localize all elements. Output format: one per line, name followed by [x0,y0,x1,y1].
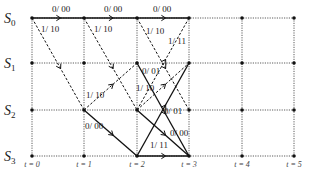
transition-edges [32,15,189,158]
edge-1-10-4 [84,63,137,110]
edge-label: 1/ 10 [86,90,105,100]
edge-label: 1/ 10 [146,26,165,36]
node-t2-s3 [135,154,139,158]
edge-label: 1/ 11 [168,36,186,46]
trellis-canvas: 0/ 001/ 100/ 001/ 101/ 100/ 000/ 001/ 10… [0,0,319,182]
node-t4-s1 [240,61,244,65]
edge-label: 0/ 00 [85,121,104,131]
edge-label: 0/ 01 [164,106,182,116]
node-t3-s2 [187,108,191,112]
node-t5-s1 [292,61,296,65]
state-label-2: S2 [4,103,16,120]
edge-label: 0/ 00 [52,4,71,14]
edge-label: 0/ 00 [153,4,172,14]
node-t1-s1 [82,61,86,65]
node-t3-s3 [187,154,191,158]
time-label-1: t = 1 [76,160,92,169]
node-t0-s2 [30,108,34,112]
node-t4-s0 [240,16,244,20]
edge-label: 1/ 10 [136,83,155,93]
time-labels: t = 0t = 1t = 2t = 3t = 4t = 5 [24,160,302,169]
node-t2-s1 [135,61,139,65]
node-t1-s0 [82,16,86,20]
state-label-3: S3 [4,149,16,166]
state-label-0: S0 [4,11,16,28]
time-label-0: t = 0 [24,160,40,169]
node-t3-s1 [187,61,191,65]
node-t4-s2 [240,108,244,112]
node-t5-s3 [292,154,296,158]
trellis-diagram: 0/ 001/ 100/ 001/ 101/ 100/ 000/ 001/ 10… [0,0,319,182]
node-t0-s1 [30,61,34,65]
edge-label: 0/ 01 [142,66,160,76]
edge-label: 0/ 00 [170,128,189,138]
node-t2-s2 [135,108,139,112]
node-t0-s3 [30,154,34,158]
time-label-5: t = 5 [286,160,302,169]
node-t4-s3 [240,154,244,158]
time-label-4: t = 4 [234,160,250,169]
node-t2-s0 [135,16,139,20]
edge-label: 1/ 10 [94,24,113,34]
edge-label: 0/ 00 [104,4,123,14]
node-t3-s0 [187,16,191,20]
edge-0-00-5 [84,110,137,156]
edge-label: 1/ 10 [41,24,60,34]
time-label-2: t = 2 [129,160,145,169]
node-t5-s0 [292,16,296,20]
time-label-3: t = 3 [181,160,197,169]
node-t1-s3 [82,154,86,158]
edge-labels: 0/ 001/ 100/ 001/ 101/ 100/ 000/ 001/ 10… [41,4,189,150]
state-label-1: S1 [4,56,16,73]
edge-label: 1/ 11 [150,140,168,150]
node-t1-s2 [82,108,86,112]
state-labels: S0S1S2S3 [4,11,16,166]
node-t5-s2 [292,108,296,112]
node-t0-s0 [30,16,34,20]
